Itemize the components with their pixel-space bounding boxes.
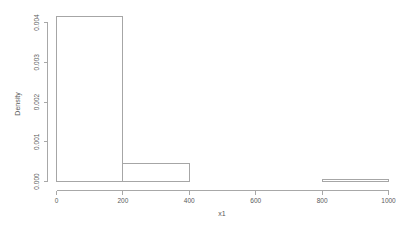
y-axis-tick-label: 0.000 [33,173,40,190]
y-axis-title: Density [14,92,22,116]
plot-background [0,0,412,233]
y-axis-tick-label: 0.002 [33,93,40,110]
y-axis-tick-label: 0.004 [33,14,40,31]
x-axis-tick-label: 200 [117,197,128,204]
x-axis-tick-label: 600 [250,197,261,204]
y-axis-tick-label: 0.001 [33,133,40,150]
x-axis-tick-label: 0 [55,197,59,204]
x-axis-title: x1 [218,210,226,217]
x-axis-tick-label: 400 [184,197,195,204]
x-axis-tick-label: 800 [317,197,328,204]
x-axis-tick-label: 1000 [381,197,396,204]
plot-canvas: 02004006008001000 0.0000.0010.0020.0030.… [0,0,412,233]
histogram-plot: 02004006008001000 0.0000.0010.0020.0030.… [0,0,412,233]
y-axis-tick-label: 0.003 [33,54,40,71]
